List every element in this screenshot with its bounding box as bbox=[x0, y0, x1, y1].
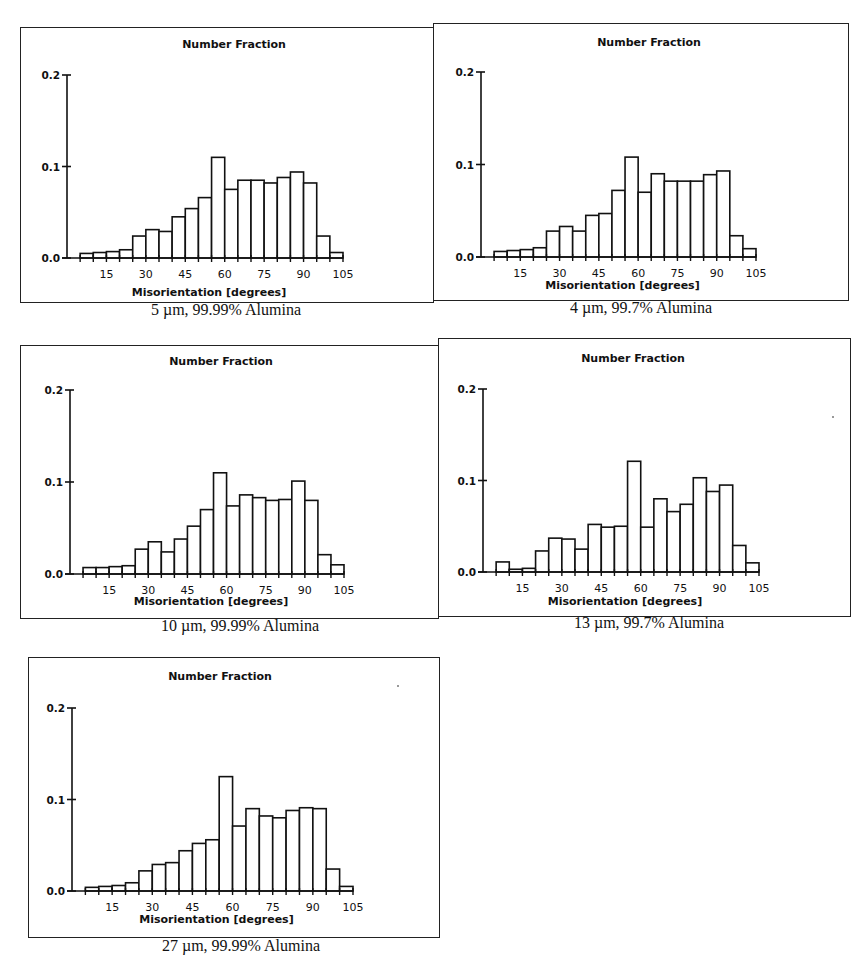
caption-4um: 4 µm, 99.7% Alumina bbox=[570, 299, 712, 317]
svg-text:0.0: 0.0 bbox=[44, 568, 63, 580]
speck bbox=[832, 416, 834, 418]
svg-text:15: 15 bbox=[513, 267, 527, 280]
svg-text:0.1: 0.1 bbox=[44, 476, 63, 488]
svg-text:0.2: 0.2 bbox=[455, 66, 474, 78]
svg-text:75: 75 bbox=[257, 268, 271, 281]
caption-10um: 10 µm, 99.99% Alumina bbox=[161, 617, 319, 635]
svg-text:90: 90 bbox=[713, 582, 727, 595]
chart-panel-4um: Number Fraction Misorientation [degrees]… bbox=[433, 23, 849, 301]
svg-text:0.2: 0.2 bbox=[457, 383, 476, 395]
histogram-plot: 0.00.10.2153045607590105 bbox=[439, 339, 850, 616]
svg-text:75: 75 bbox=[670, 267, 684, 280]
svg-text:0.1: 0.1 bbox=[41, 161, 60, 173]
svg-text:45: 45 bbox=[185, 901, 199, 914]
svg-text:90: 90 bbox=[297, 268, 311, 281]
chart-panel-13um: Number Fraction Misorientation [degrees]… bbox=[438, 338, 851, 617]
svg-text:45: 45 bbox=[594, 582, 608, 595]
svg-text:60: 60 bbox=[218, 268, 232, 281]
svg-text:60: 60 bbox=[220, 584, 234, 597]
histogram-plot: 0.00.10.2153045607590105 bbox=[29, 658, 439, 937]
svg-text:0.2: 0.2 bbox=[44, 384, 63, 396]
svg-text:0.1: 0.1 bbox=[455, 159, 474, 171]
chart-panel-27um: Number Fraction Misorientation [degrees]… bbox=[28, 657, 440, 938]
svg-text:45: 45 bbox=[180, 584, 194, 597]
svg-text:105: 105 bbox=[343, 901, 364, 914]
svg-text:90: 90 bbox=[306, 901, 320, 914]
svg-text:0.2: 0.2 bbox=[41, 69, 60, 81]
svg-text:0.0: 0.0 bbox=[455, 251, 474, 263]
histogram-plot: 0.00.10.2153045607590105 bbox=[434, 24, 848, 300]
svg-text:0.0: 0.0 bbox=[41, 252, 60, 264]
svg-text:60: 60 bbox=[226, 901, 240, 914]
chart-panel-5um: Number Fraction Misorientation [degrees]… bbox=[20, 27, 434, 303]
svg-text:0.0: 0.0 bbox=[457, 566, 476, 578]
svg-text:45: 45 bbox=[592, 267, 606, 280]
caption-13um: 13 µm, 99.7% Alumina bbox=[574, 614, 724, 632]
svg-text:105: 105 bbox=[334, 584, 355, 597]
svg-text:30: 30 bbox=[145, 901, 159, 914]
caption-27um: 27 µm, 99.99% Alumina bbox=[162, 937, 320, 955]
svg-text:15: 15 bbox=[105, 901, 119, 914]
histogram-plot: 0.00.10.2153045607590105 bbox=[21, 346, 438, 618]
svg-text:30: 30 bbox=[555, 582, 569, 595]
svg-text:75: 75 bbox=[673, 582, 687, 595]
svg-text:60: 60 bbox=[634, 582, 648, 595]
chart-panel-10um: Number Fraction Misorientation [degrees]… bbox=[20, 345, 439, 619]
svg-text:0.0: 0.0 bbox=[46, 885, 65, 897]
svg-text:15: 15 bbox=[102, 584, 116, 597]
histogram-plot: 0.00.10.2153045607590105 bbox=[21, 28, 433, 302]
svg-text:90: 90 bbox=[298, 584, 312, 597]
svg-text:60: 60 bbox=[631, 267, 645, 280]
speck bbox=[397, 685, 399, 687]
svg-text:75: 75 bbox=[266, 901, 280, 914]
svg-text:75: 75 bbox=[259, 584, 273, 597]
svg-text:0.1: 0.1 bbox=[46, 794, 65, 806]
svg-text:105: 105 bbox=[333, 268, 354, 281]
svg-text:105: 105 bbox=[746, 267, 767, 280]
svg-text:15: 15 bbox=[99, 268, 113, 281]
svg-text:0.1: 0.1 bbox=[457, 475, 476, 487]
svg-text:45: 45 bbox=[178, 268, 192, 281]
svg-text:30: 30 bbox=[139, 268, 153, 281]
svg-text:30: 30 bbox=[553, 267, 567, 280]
caption-5um: 5 µm, 99.99% Alumina bbox=[151, 301, 301, 319]
svg-text:105: 105 bbox=[749, 582, 770, 595]
svg-text:90: 90 bbox=[710, 267, 724, 280]
svg-text:0.2: 0.2 bbox=[46, 702, 65, 714]
svg-text:15: 15 bbox=[515, 582, 529, 595]
svg-text:30: 30 bbox=[141, 584, 155, 597]
